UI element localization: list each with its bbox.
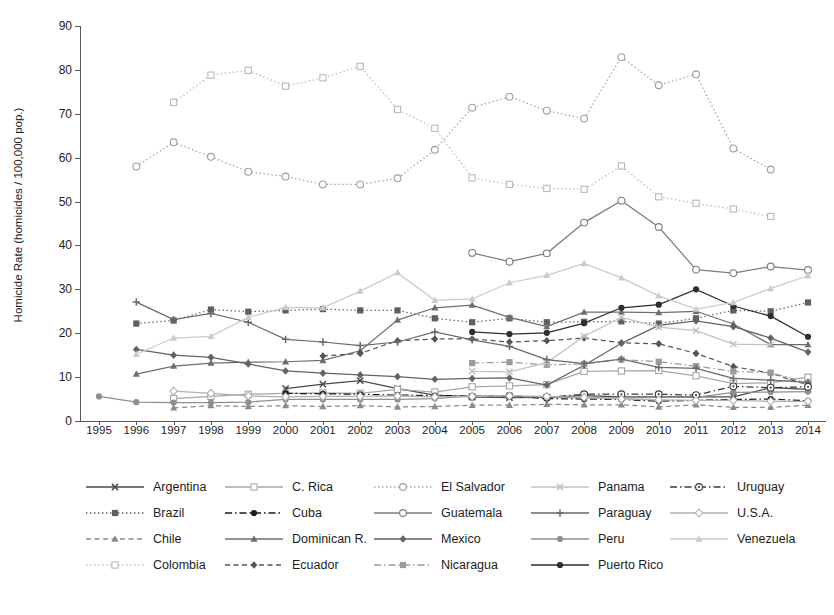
- legend-swatch-x-icon: [529, 478, 591, 496]
- x-axis-tick-label: 2010: [646, 424, 672, 436]
- legend-label: Chile: [146, 532, 182, 546]
- legend-item-nicaragua[interactable]: Nicaragua: [372, 552, 498, 578]
- x-axis-tick-label: 2008: [571, 424, 597, 436]
- x-axis-tick-label: 2009: [609, 424, 635, 436]
- x-axis-tick-mark: [771, 421, 772, 425]
- legend-item-c-rica[interactable]: C. Rica: [223, 474, 333, 500]
- chart-plot-area: Homicide Rate (homicides / 100,000 pop.)…: [0, 0, 834, 468]
- x-axis-tick-label: 2003: [385, 424, 411, 436]
- y-axis-tick-mark: [75, 289, 80, 290]
- legend-item-puerto-rico[interactable]: Puerto Rico: [529, 552, 663, 578]
- legend-swatch-filled-circle-icon: [223, 504, 285, 522]
- legend-item-u-s-a[interactable]: U.S.A.: [668, 500, 773, 526]
- x-axis-tick-mark: [99, 421, 100, 425]
- legend-row: ChileDominican R.MexicoPeruVenezuela: [0, 526, 834, 552]
- legend-item-colombia[interactable]: Colombia: [84, 552, 206, 578]
- legend-swatch-filled-diamond-icon: [372, 530, 434, 548]
- y-axis-tick-mark: [75, 377, 80, 378]
- chart-figure: Homicide Rate (homicides / 100,000 pop.)…: [0, 0, 834, 615]
- legend-label: U.S.A.: [730, 506, 773, 520]
- legend-item-dominican-r[interactable]: Dominican R.: [223, 526, 367, 552]
- legend-swatch-open-square-icon: [84, 556, 146, 574]
- legend-label: Colombia: [146, 558, 206, 572]
- legend-item-brazil[interactable]: Brazil: [84, 500, 184, 526]
- legend-item-chile[interactable]: Chile: [84, 526, 182, 552]
- legend-swatch-filled-circle-icon: [529, 530, 591, 548]
- legend-label: Mexico: [434, 532, 481, 546]
- legend-item-ecuador[interactable]: Ecuador: [223, 552, 339, 578]
- legend-item-guatemala[interactable]: Guatemala: [372, 500, 502, 526]
- x-axis-tick-mark: [286, 421, 287, 425]
- legend-label: Dominican R.: [285, 532, 367, 546]
- legend-swatch-filled-diamond-icon: [223, 556, 285, 574]
- legend-item-mexico[interactable]: Mexico: [372, 526, 481, 552]
- x-axis-line: [80, 421, 826, 422]
- legend-label: Panama: [591, 480, 645, 494]
- series-lines-svg: [81, 26, 826, 421]
- legend-swatch-x-icon: [84, 478, 146, 496]
- x-axis-tick-label: 2002: [347, 424, 373, 436]
- x-axis-tick-label: 2004: [422, 424, 448, 436]
- series-guatemala: [469, 197, 812, 276]
- legend-item-panama[interactable]: Panama: [529, 474, 645, 500]
- x-axis-tick-mark: [696, 421, 697, 425]
- legend-swatch-open-diamond-icon: [668, 504, 730, 522]
- y-axis-tick-mark: [75, 245, 80, 246]
- y-axis-title: Homicide Rate (homicides / 100,000 pop.): [4, 0, 32, 430]
- legend-label: El Salvador: [434, 480, 505, 494]
- x-axis-tick-label: 2006: [497, 424, 523, 436]
- x-axis-tick-mark: [248, 421, 249, 425]
- y-axis-tick-mark: [75, 202, 80, 203]
- legend-item-argentina[interactable]: Argentina: [84, 474, 207, 500]
- legend-label: Argentina: [146, 480, 207, 494]
- legend-label: Puerto Rico: [591, 558, 663, 572]
- legend-item-peru[interactable]: Peru: [529, 526, 624, 552]
- legend-row: BrazilCubaGuatemalaParaguayU.S.A.: [0, 500, 834, 526]
- legend-label: C. Rica: [285, 480, 333, 494]
- x-axis-tick-mark: [472, 421, 473, 425]
- x-axis-tick-label: 1997: [161, 424, 187, 436]
- x-axis-tick-label: 1998: [198, 424, 224, 436]
- legend-item-uruguay[interactable]: Uruguay: [668, 474, 784, 500]
- legend-item-paraguay[interactable]: Paraguay: [529, 500, 652, 526]
- series-puerto-rico: [469, 286, 811, 340]
- x-axis-tick-mark: [621, 421, 622, 425]
- x-axis-tick-mark: [509, 421, 510, 425]
- legend-swatch-filled-triangle-icon: [668, 530, 730, 548]
- x-axis-tick-label: 2012: [721, 424, 747, 436]
- y-axis-tick-mark: [75, 333, 80, 334]
- legend-label: Cuba: [285, 506, 322, 520]
- y-axis-tick-mark: [75, 70, 80, 71]
- x-axis-tick-label: 1995: [86, 424, 112, 436]
- legend-item-venezuela[interactable]: Venezuela: [668, 526, 795, 552]
- legend-label: Ecuador: [285, 558, 339, 572]
- legend-swatch-circle-dot-icon: [668, 478, 730, 496]
- x-axis-tick-label: 2005: [459, 424, 485, 436]
- legend-swatch-plus-icon: [529, 504, 591, 522]
- x-axis-tick-mark: [174, 421, 175, 425]
- x-axis-tick-mark: [547, 421, 548, 425]
- x-axis-tick-label: 2007: [534, 424, 560, 436]
- legend-row: ArgentinaC. RicaEl SalvadorPanamaUruguay: [0, 474, 834, 500]
- legend-swatch-filled-triangle-icon: [84, 530, 146, 548]
- legend-swatch-filled-square-icon: [372, 556, 434, 574]
- x-axis-tick-label: 2000: [273, 424, 299, 436]
- x-axis-tick-label: 2013: [758, 424, 784, 436]
- y-axis-tick-mark: [75, 421, 80, 422]
- series-paraguay: [133, 298, 812, 386]
- x-axis-tick-mark: [323, 421, 324, 425]
- series-el-salvador: [133, 54, 774, 188]
- x-axis-tick-mark: [435, 421, 436, 425]
- legend-swatch-open-circle-icon: [372, 504, 434, 522]
- legend-item-el-salvador[interactable]: El Salvador: [372, 474, 505, 500]
- x-axis-tick-mark: [659, 421, 660, 425]
- x-axis-tick-mark: [211, 421, 212, 425]
- x-axis-tick-mark: [733, 421, 734, 425]
- y-axis-tick-mark: [75, 26, 80, 27]
- legend-item-cuba[interactable]: Cuba: [223, 500, 322, 526]
- series-u-s-a: [170, 387, 812, 405]
- y-axis-tick-mark: [75, 158, 80, 159]
- x-axis-tick-label: 1999: [235, 424, 261, 436]
- legend-swatch-filled-triangle-icon: [223, 530, 285, 548]
- legend-swatch-open-circle-icon: [372, 478, 434, 496]
